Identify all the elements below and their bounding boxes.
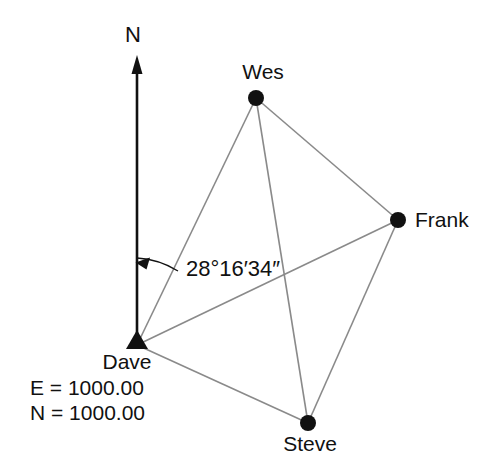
line-wes-frank — [256, 98, 398, 220]
dave-easting-label: E = 1000.00 — [30, 376, 145, 401]
north-label: N — [125, 22, 141, 48]
line-dave-frank — [137, 220, 398, 345]
station-label-wes: Wes — [242, 60, 284, 85]
station-label-dave: Dave — [102, 350, 151, 375]
north-arrow — [132, 55, 143, 345]
angle-arc-group — [136, 258, 179, 272]
dave-northing-label: N = 1000.00 — [30, 401, 145, 426]
line-dave-wes — [137, 98, 256, 345]
station-label-steve: Steve — [283, 432, 337, 457]
station-marker-wes — [248, 90, 264, 106]
angle-label: 28°16′34″ — [186, 256, 280, 282]
station-marker-frank — [390, 212, 406, 228]
station-marker-steve — [300, 415, 316, 431]
survey-diagram: N Wes Frank Steve Dave E = 1000.00 N = 1… — [0, 0, 491, 472]
line-dave-steve — [137, 345, 308, 423]
station-marker-dave — [126, 330, 148, 349]
dave-coordinates: E = 1000.00 N = 1000.00 — [30, 376, 145, 426]
north-arrow-head — [132, 55, 143, 74]
line-frank-steve — [308, 220, 398, 423]
station-label-frank: Frank — [415, 208, 469, 233]
